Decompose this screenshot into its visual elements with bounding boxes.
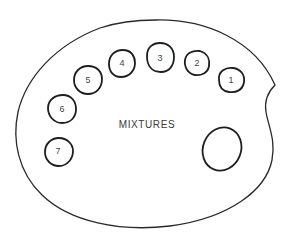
- mixtures-label: MIXTURES: [119, 119, 175, 130]
- well-7-label: 7: [55, 146, 60, 156]
- well-3: 3: [147, 43, 174, 72]
- palette-svg: 1 2 3 4 5 6 7 MIXTURES: [0, 0, 297, 234]
- well-2: 2: [185, 51, 209, 75]
- well-7: 7: [45, 138, 73, 166]
- well-4: 4: [109, 50, 135, 77]
- well-6-label: 6: [59, 104, 64, 114]
- well-3-label: 3: [157, 53, 162, 63]
- well-1-label: 1: [228, 75, 233, 85]
- well-1: 1: [219, 68, 244, 92]
- palette-diagram: 1 2 3 4 5 6 7 MIXTURES: [0, 0, 297, 234]
- well-2-label: 2: [194, 58, 199, 68]
- well-6: 6: [48, 95, 76, 123]
- well-5: 5: [74, 66, 102, 94]
- well-5-label: 5: [85, 75, 90, 85]
- well-4-label: 4: [119, 58, 124, 68]
- mixing-well: [196, 121, 248, 176]
